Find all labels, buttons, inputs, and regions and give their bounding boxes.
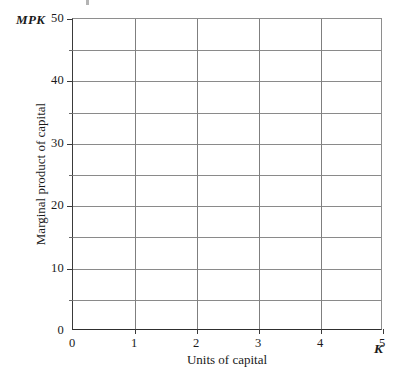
y-axis-tick (67, 81, 73, 82)
x-tick-label: 0 (57, 337, 87, 349)
gridline-horizontal (73, 175, 381, 176)
x-tick-label: 1 (119, 337, 149, 349)
y-axis-minor-tick (69, 113, 73, 114)
gridline-horizontal (73, 113, 381, 114)
y-axis-tick (67, 206, 73, 207)
y-tick-label: 30 (51, 137, 64, 149)
gridline-horizontal (73, 300, 381, 301)
y-axis-minor-tick (69, 300, 73, 301)
gridline-vertical (321, 19, 322, 329)
y-tick-label: 20 (51, 199, 64, 211)
gridline-vertical (197, 19, 198, 329)
x-axis-tick (321, 329, 322, 334)
gridline-horizontal (73, 81, 381, 82)
x-axis-tick (197, 329, 198, 334)
gridline-horizontal (73, 206, 381, 207)
scan-artifact (86, 0, 89, 5)
x-axis-tick (135, 329, 136, 334)
y-axis-tick (67, 19, 73, 20)
plot-area (72, 18, 382, 330)
y-tick-label: 10 (51, 262, 64, 274)
gridline-vertical (259, 19, 260, 329)
y-tick-label: 40 (51, 74, 64, 86)
x-tick-label: 4 (305, 337, 335, 349)
gridline-horizontal (73, 50, 381, 51)
gridline-horizontal (73, 144, 381, 145)
x-axis-title: Units of capital (72, 352, 382, 368)
x-tick-label: 3 (243, 337, 273, 349)
x-tick-label: 2 (181, 337, 211, 349)
gridline-horizontal (73, 269, 381, 270)
y-tick-label-group: 01020304050 (38, 18, 64, 330)
x-axis-tick (259, 329, 260, 334)
y-axis-tick (67, 144, 73, 145)
chart-figure: MPK Marginal product of capital 01020304… (0, 0, 406, 371)
gridline-horizontal (73, 237, 381, 238)
y-tick-label: 0 (58, 324, 64, 336)
y-tick-label: 50 (51, 12, 64, 24)
x-axis-symbol: K (374, 341, 383, 357)
y-axis-minor-tick (69, 237, 73, 238)
y-axis-minor-tick (69, 50, 73, 51)
y-axis-minor-tick (69, 175, 73, 176)
x-axis-tick (383, 329, 384, 334)
y-axis-tick (67, 269, 73, 270)
x-tick-label-group: 012345 (72, 337, 382, 353)
gridline-vertical (135, 19, 136, 329)
